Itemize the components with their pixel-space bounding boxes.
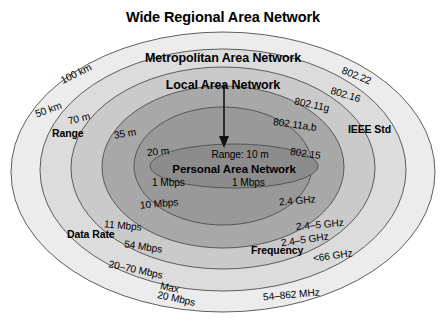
tier-title-wran: Wide Regional Area Network bbox=[126, 10, 320, 25]
data-rate-value-pan-left: 1 Mbps bbox=[152, 178, 185, 189]
axis-label-range: Range bbox=[52, 128, 84, 139]
tier-title-pan: Personal Area Network bbox=[172, 163, 295, 175]
axis-label-data-rate: Data Rate bbox=[67, 229, 115, 240]
tier-title-man: Metropolitan Area Network bbox=[145, 52, 301, 65]
network-scope-diagram: Wide Regional Area Network Metropolitan … bbox=[0, 0, 446, 336]
data-rate-value-pan: 1 Mbps bbox=[232, 178, 265, 189]
axis-label-ieee-std: IEEE Std bbox=[348, 124, 391, 135]
tier-title-lan: Local Area Network bbox=[166, 79, 280, 92]
pan-range-label: Range: 10 m bbox=[211, 150, 268, 161]
range-value-lan-inner: 20 m bbox=[147, 146, 170, 159]
